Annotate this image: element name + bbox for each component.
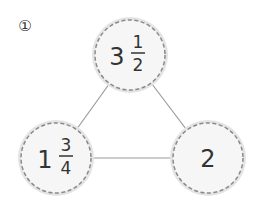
node-top-numerator: 1 bbox=[133, 32, 144, 52]
node-bottom-left: 1 3 4 bbox=[18, 120, 94, 196]
node-bottom-right: 2 bbox=[170, 120, 246, 196]
node-top-denominator: 2 bbox=[133, 55, 144, 75]
node-top-whole: 3 bbox=[109, 43, 124, 71]
node-bottom-left-numerator: 3 bbox=[61, 135, 72, 155]
node-top: 3 1 2 bbox=[92, 17, 168, 93]
node-bottom-right-whole: 2 bbox=[200, 145, 215, 173]
triangle-diagram: ① 3 1 2 1 3 4 2 bbox=[0, 0, 260, 199]
node-bottom-left-denominator: 4 bbox=[61, 158, 72, 178]
problem-number: ① bbox=[18, 17, 31, 35]
node-bottom-left-whole: 1 bbox=[37, 146, 52, 174]
